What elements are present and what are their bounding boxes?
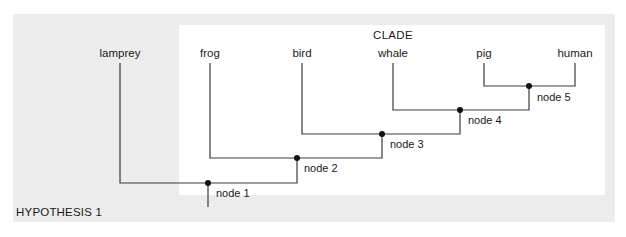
node-4-dot xyxy=(457,107,463,113)
taxon-whale: whale xyxy=(378,46,408,60)
node-1-dot xyxy=(205,180,211,186)
branch-lamprey xyxy=(120,63,208,183)
phylogenetic-tree xyxy=(0,0,626,237)
branch-pig-human xyxy=(484,63,575,86)
node-3-label: node 3 xyxy=(390,137,424,151)
hypothesis-label: HYPOTHESIS 1 xyxy=(16,205,102,219)
taxon-frog: frog xyxy=(200,46,220,60)
node-2-label: node 2 xyxy=(304,161,338,175)
node-5-dot xyxy=(526,83,532,89)
branch-node2-node3 xyxy=(297,134,382,158)
node-4-label: node 4 xyxy=(468,113,502,127)
taxon-lamprey: lamprey xyxy=(100,46,141,60)
node-1-label: node 1 xyxy=(216,186,250,200)
branch-frog xyxy=(210,63,297,158)
node-5-label: node 5 xyxy=(537,90,571,104)
taxon-human: human xyxy=(557,46,592,60)
clade-label: CLADE xyxy=(373,28,413,42)
node-2-dot xyxy=(294,155,300,161)
node-3-dot xyxy=(379,131,385,137)
branch-node4-node5 xyxy=(460,86,529,110)
branch-node1-node2 xyxy=(208,158,297,183)
taxon-bird: bird xyxy=(292,46,311,60)
branch-bird xyxy=(302,63,382,134)
taxon-pig: pig xyxy=(476,46,491,60)
branch-node3-node4 xyxy=(382,110,460,134)
branch-whale xyxy=(393,63,460,110)
